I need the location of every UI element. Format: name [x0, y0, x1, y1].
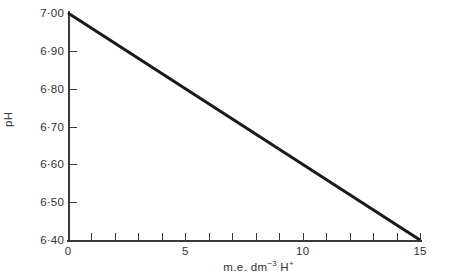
chart-figure: 6·406·506·606·706·806·907·00051015 pH m.… — [0, 0, 459, 280]
data-series-layer — [0, 0, 459, 280]
data-line-ph — [68, 13, 420, 240]
